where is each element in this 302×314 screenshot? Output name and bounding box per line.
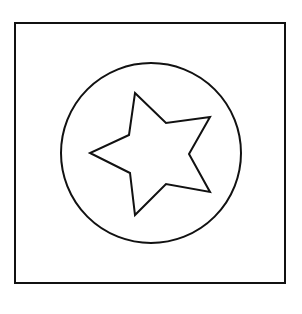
figure-canvas: [0, 0, 302, 314]
star-shape: [90, 93, 210, 215]
